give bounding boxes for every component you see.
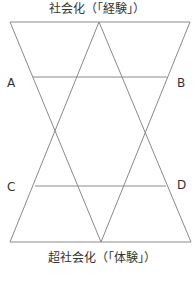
label-b: B xyxy=(177,76,185,90)
label-d: D xyxy=(177,178,186,192)
upward-triangle xyxy=(10,22,191,242)
downward-triangle xyxy=(10,22,190,242)
hexagram-diagram xyxy=(0,0,194,281)
label-c: C xyxy=(7,180,15,194)
label-a: A xyxy=(7,76,15,90)
bottom-title-super-socialization: 超社会化（「体験」） xyxy=(5,251,194,265)
